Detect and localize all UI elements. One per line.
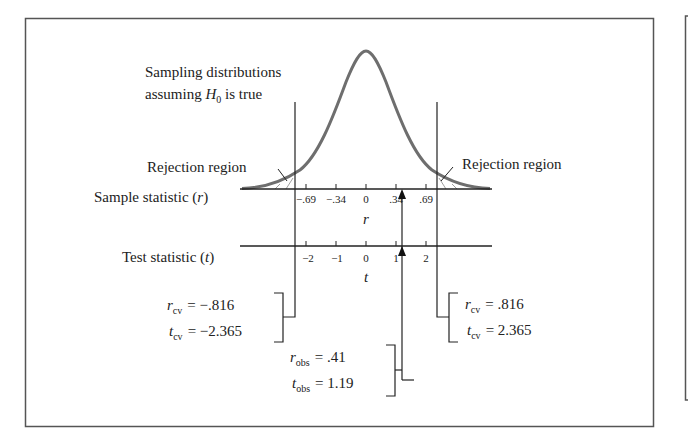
rejection-region-left-label: Rejection region (147, 159, 247, 175)
critical-left-t: tcv= −2.365 (169, 323, 242, 342)
svg-text:−2: −2 (302, 252, 314, 264)
critical-line-right (437, 102, 449, 317)
critical-left-bracket (274, 293, 283, 342)
r-axis-label: Sample statistic (r) (94, 189, 208, 206)
r-axis-tick-labels: −.69 −.34 0 .34 .69 (296, 193, 433, 205)
svg-text:0: 0 (363, 193, 369, 205)
observed-arrow-head-t (398, 246, 406, 256)
diagram-canvas: Sampling distributions assuming H0 is tr… (0, 0, 688, 441)
t-axis-tick-labels: −2 −1 0 1 2 (302, 252, 429, 264)
svg-text:0: 0 (363, 252, 369, 264)
critical-line-left (283, 102, 295, 317)
observed-r: robs= .41 (290, 349, 346, 368)
r-axis-variable: r (363, 211, 369, 227)
observed-t: tobs= 1.19 (292, 375, 354, 394)
critical-left-r: rcv= −.816 (167, 297, 235, 316)
svg-text:2: 2 (423, 252, 429, 264)
svg-text:1: 1 (393, 252, 399, 264)
sampling-distribution-title-line1: Sampling distributions (145, 64, 281, 80)
observed-bracket (386, 345, 395, 396)
critical-right-t: tcv= 2.365 (467, 322, 532, 341)
svg-text:−.69: −.69 (296, 193, 316, 205)
figure-frame (26, 19, 654, 427)
critical-right-bracket (449, 293, 458, 342)
sampling-distribution-title-line2: assuming H0 is true (145, 86, 262, 105)
rejection-region-right-label: Rejection region (462, 156, 562, 172)
svg-text:.69: .69 (419, 193, 433, 205)
svg-text:−1: −1 (331, 252, 343, 264)
t-axis-variable: t (364, 269, 369, 285)
svg-text:−.34: −.34 (326, 193, 346, 205)
critical-right-r: rcv= .816 (465, 296, 524, 315)
t-axis-label: Test statistic (t) (122, 249, 214, 266)
